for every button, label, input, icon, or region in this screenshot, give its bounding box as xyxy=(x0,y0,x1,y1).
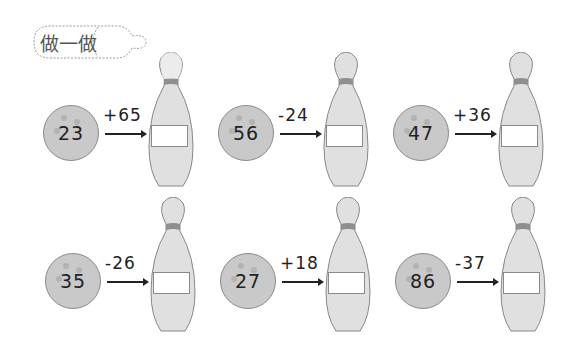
bowling-ball: 27 xyxy=(220,253,276,309)
answer-box[interactable] xyxy=(151,125,188,147)
bowling-pin-icon xyxy=(322,52,370,188)
bowling-pin-icon xyxy=(147,52,195,188)
bowling-pin-icon xyxy=(499,197,547,333)
arrow-icon xyxy=(457,281,497,283)
answer-box[interactable] xyxy=(153,272,190,294)
answer-box[interactable] xyxy=(503,272,540,294)
bowling-ball: 56 xyxy=(218,105,274,161)
start-number: 56 xyxy=(219,106,273,160)
bowling-pin-icon xyxy=(149,197,197,333)
start-number: 23 xyxy=(44,106,98,160)
operation-label: -24 xyxy=(278,105,309,125)
problem-1: 23 +65 xyxy=(43,50,213,200)
answer-box[interactable] xyxy=(501,125,538,147)
start-number: 47 xyxy=(394,106,448,160)
problem-2: 56 -24 xyxy=(218,50,388,200)
bowling-ball: 47 xyxy=(393,105,449,161)
start-number: 27 xyxy=(221,254,275,308)
bowling-pin-icon xyxy=(497,52,545,188)
answer-box[interactable] xyxy=(328,272,365,294)
arrow-icon xyxy=(105,133,145,135)
problem-4: 35 -26 xyxy=(45,195,215,342)
problem-3: 47 +36 xyxy=(393,50,563,200)
problem-6: 86 -37 xyxy=(395,195,565,342)
start-number: 35 xyxy=(46,254,100,308)
bowling-ball: 86 xyxy=(395,253,451,309)
operation-label: -26 xyxy=(105,253,136,273)
bowling-ball: 35 xyxy=(45,253,101,309)
operation-label: +65 xyxy=(103,105,142,125)
bowling-ball: 23 xyxy=(43,105,99,161)
operation-label: +18 xyxy=(280,253,319,273)
arrow-icon xyxy=(107,281,147,283)
arrow-icon xyxy=(282,281,322,283)
arrow-icon xyxy=(455,133,495,135)
operation-label: -37 xyxy=(455,253,486,273)
start-number: 86 xyxy=(396,254,450,308)
problem-5: 27 +18 xyxy=(220,195,390,342)
arrow-icon xyxy=(280,133,320,135)
operation-label: +36 xyxy=(453,105,492,125)
answer-box[interactable] xyxy=(326,125,363,147)
bowling-pin-icon xyxy=(324,197,372,333)
